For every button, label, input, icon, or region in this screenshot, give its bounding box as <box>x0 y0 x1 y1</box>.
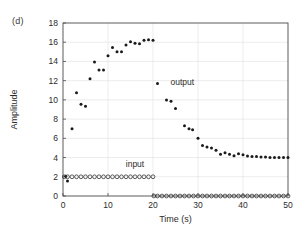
data-point-output <box>138 42 141 45</box>
series-output <box>64 38 289 182</box>
x-tick-label: 30 <box>193 200 203 210</box>
y-tick-label: 0 <box>53 191 58 201</box>
data-point-output <box>156 82 159 85</box>
data-point-output <box>75 91 78 94</box>
x-tick-label: 50 <box>283 200 293 210</box>
x-axis-title: Time (s) <box>159 214 192 224</box>
data-point-output <box>237 152 240 155</box>
data-point-output <box>273 156 276 159</box>
data-point-output <box>107 54 110 57</box>
data-point-output <box>80 103 83 106</box>
data-point-output <box>134 42 137 45</box>
data-point-output <box>219 153 222 156</box>
data-point-output <box>278 156 281 159</box>
data-point-output <box>129 40 132 43</box>
series-label-input: input <box>126 159 145 169</box>
data-point-output <box>215 149 218 152</box>
data-point-output <box>98 69 101 72</box>
figure-panel: (d) 024681012141618 01020304050 outputin… <box>0 0 298 226</box>
data-point-output <box>147 38 150 41</box>
data-point-output <box>233 154 236 157</box>
data-point-output <box>116 50 119 53</box>
data-point-output <box>242 153 245 156</box>
data-point-output <box>174 107 177 110</box>
data-point-output <box>165 98 168 101</box>
y-tick-label: 14 <box>49 56 59 66</box>
y-tick-label: 16 <box>49 37 59 47</box>
y-tick-label: 10 <box>49 95 59 105</box>
data-point-output <box>224 151 227 154</box>
data-point-output <box>197 137 200 140</box>
data-point-output <box>66 180 69 183</box>
data-point-output <box>89 77 92 80</box>
x-tick-label: 20 <box>148 200 158 210</box>
data-point-output <box>228 153 231 156</box>
data-point-output <box>210 146 213 149</box>
data-point-output <box>246 155 249 158</box>
data-point-output <box>282 156 285 159</box>
axis-titles: Time (s)Amplitude <box>9 89 192 224</box>
data-point-output <box>188 127 191 130</box>
y-tick-label: 4 <box>53 153 58 163</box>
data-point-output <box>287 156 290 159</box>
y-tick-label: 6 <box>53 133 58 143</box>
scatter-plot: 024681012141618 01020304050 outputinput … <box>0 0 298 226</box>
data-point-output <box>255 155 258 158</box>
x-tick-label: 40 <box>238 200 248 210</box>
data-point-output <box>251 155 254 158</box>
x-tick-label: 0 <box>61 200 66 210</box>
data-point-output <box>170 100 173 103</box>
x-tick-label: 10 <box>103 200 113 210</box>
data-point-output <box>143 39 146 42</box>
series-label-output: output <box>170 77 194 87</box>
data-point-output <box>191 128 194 131</box>
data-point-output <box>93 60 96 63</box>
data-point-output <box>125 44 128 47</box>
data-point-output <box>206 145 209 148</box>
y-tick-label: 18 <box>49 18 59 28</box>
y-tick-label: 2 <box>53 172 58 182</box>
y-tick-label: 12 <box>49 76 59 86</box>
y-axis-title: Amplitude <box>9 89 19 129</box>
data-point-output <box>260 156 263 159</box>
data-point-output <box>71 127 74 130</box>
data-point-output <box>102 69 105 72</box>
data-point-output <box>120 50 123 53</box>
data-point-output <box>111 46 114 49</box>
data-point-output <box>269 156 272 159</box>
data-point-output <box>84 105 87 108</box>
y-tick-label: 8 <box>53 114 58 124</box>
data-point-output <box>152 39 155 42</box>
data-point-output <box>264 156 267 159</box>
series-input <box>62 175 289 198</box>
annotations: outputinput <box>126 77 195 170</box>
data-point-output <box>201 144 204 147</box>
data-point-output <box>183 124 186 127</box>
